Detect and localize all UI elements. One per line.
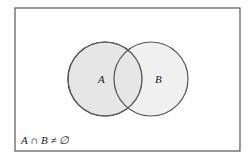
venn-diagram: A B A ∩ B ≠ ∅ <box>0 0 251 161</box>
set-a-label: A <box>97 73 105 85</box>
set-b-circle <box>114 42 188 116</box>
caption: A ∩ B ≠ ∅ <box>20 134 69 146</box>
set-b-label: B <box>155 73 162 85</box>
